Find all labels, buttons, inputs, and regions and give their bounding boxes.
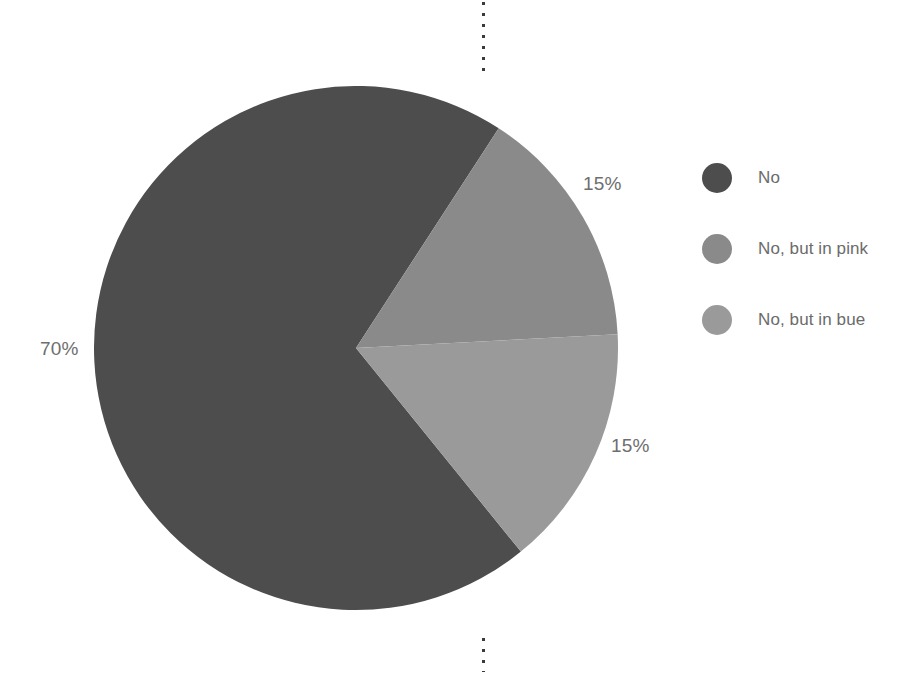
legend-item-label: No, but in bue [758, 310, 865, 330]
pie-label-70-percent: 70% [40, 338, 79, 360]
legend-swatch-icon [702, 305, 732, 335]
legend-item-no-but-in-pink[interactable]: No, but in pink [702, 234, 898, 264]
pie-label-lower-15-percent: 15% [611, 435, 650, 457]
legend-item-label: No [758, 168, 780, 188]
crop-mark-top-icon [482, 2, 485, 72]
legend-swatch-icon [702, 163, 732, 193]
legend-item-no-but-in-bue[interactable]: No, but in bue [702, 305, 898, 335]
legend-item-label: No, but in pink [758, 239, 868, 259]
legend-item-no[interactable]: No [702, 163, 898, 193]
pie-chart [94, 86, 618, 610]
crop-mark-bottom-icon [482, 638, 485, 672]
pie-label-upper-15-percent: 15% [583, 173, 622, 195]
pie-chart-svg [94, 86, 618, 610]
chart-legend: No No, but in pink No, but in bue [702, 163, 898, 335]
legend-swatch-icon [702, 234, 732, 264]
